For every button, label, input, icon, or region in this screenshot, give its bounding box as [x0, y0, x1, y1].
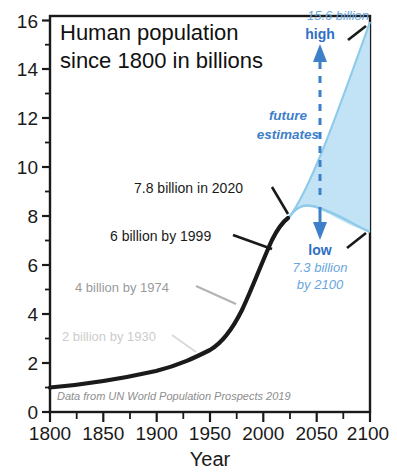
- label-high-word: high: [305, 26, 335, 42]
- x-tick-label-1950: 1950: [189, 423, 231, 444]
- chart-title-line-2: since 1800 in billions: [60, 48, 263, 73]
- plot-frame: [50, 16, 370, 412]
- y-tick-label-0: 0: [27, 402, 38, 423]
- y-tick-label-12: 12: [17, 108, 38, 129]
- label-low-value-line-1: 7.3 billion: [293, 260, 348, 275]
- label-low-word: low: [308, 242, 331, 258]
- x-tick-label-1800: 1800: [29, 423, 71, 444]
- x-tick-label-1850: 1850: [82, 423, 124, 444]
- label-future-line-2: estimates: [257, 127, 320, 142]
- x-axis-ticks: [50, 412, 370, 422]
- y-tick-label-10: 10: [17, 157, 38, 178]
- label-low-value-line-2: by 2100: [297, 277, 344, 292]
- annotation-4-billion-1974: 4 billion by 1974: [75, 280, 169, 295]
- x-axis-title: Year: [190, 448, 231, 470]
- x-tick-label-2000: 2000: [242, 423, 284, 444]
- x-tick-label-2100: 2100: [347, 423, 389, 444]
- annotation-2-billion-1930: 2 billion by 1930: [62, 329, 156, 344]
- y-tick-label-14: 14: [17, 59, 39, 80]
- label-future-line-1: future: [269, 108, 308, 123]
- y-tick-label-8: 8: [27, 206, 38, 227]
- annotation-7-8-billion-2020: 7.8 billion in 2020: [134, 180, 243, 196]
- x-tick-label-2050: 2050: [296, 423, 338, 444]
- source-note: Data from UN World Population Prospects …: [57, 390, 291, 402]
- label-high-value: 15.6 billion: [307, 8, 369, 23]
- chart-title-line-1: Human population: [60, 20, 239, 45]
- population-chart-figure: 16 14 12 10 8 6 4 2 0 1800 1850 1: [0, 0, 397, 474]
- y-tick-label-4: 4: [27, 304, 38, 325]
- y-tick-label-16: 16: [17, 11, 38, 32]
- y-tick-label-6: 6: [27, 255, 38, 276]
- x-tick-label-1900: 1900: [136, 423, 178, 444]
- chart-canvas: 16 14 12 10 8 6 4 2 0 1800 1850 1: [0, 0, 397, 474]
- y-tick-label-2: 2: [27, 353, 38, 374]
- annotation-6-billion-1999: 6 billion by 1999: [110, 228, 211, 244]
